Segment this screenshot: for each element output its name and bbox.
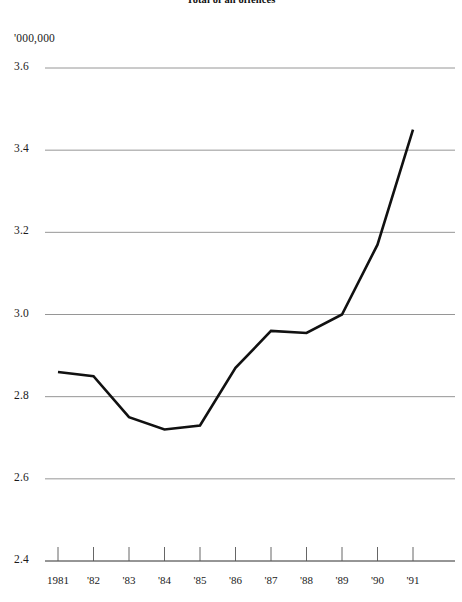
x-tick-label: '87 — [265, 574, 278, 586]
x-tick-label: '82 — [87, 574, 100, 586]
x-tick-label: '85 — [194, 574, 207, 586]
x-tick-label: '89 — [336, 574, 349, 586]
x-axis-group — [45, 547, 455, 561]
x-tick-label: '83 — [123, 574, 136, 586]
chart-figure: Total of all offences '000,000 2.42.62.8… — [0, 0, 462, 602]
y-tick-label: 3.6 — [14, 60, 48, 72]
x-tick-label: '91 — [407, 574, 420, 586]
x-tick-label: '84 — [158, 574, 171, 586]
x-tick-label: '86 — [229, 574, 242, 586]
y-tick-label: 2.6 — [14, 471, 48, 483]
y-tick-label: 2.4 — [14, 553, 48, 565]
x-tick-label: '88 — [300, 574, 313, 586]
gridlines-group — [45, 68, 455, 561]
data-series-group — [58, 130, 413, 430]
y-tick-label: 2.8 — [14, 389, 48, 401]
x-tick-label: '90 — [371, 574, 384, 586]
y-tick-label: 3.2 — [14, 224, 48, 236]
y-tick-label: 3.4 — [14, 142, 48, 154]
data-line — [58, 130, 413, 430]
y-tick-label: 3.0 — [14, 307, 48, 319]
x-tick-label: 1981 — [47, 574, 69, 586]
plot-area — [0, 0, 462, 602]
